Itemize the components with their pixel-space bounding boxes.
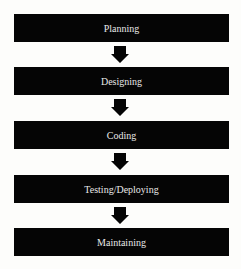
step-label: Coding: [107, 130, 136, 141]
step-label: Testing/Deploying: [84, 184, 158, 195]
down-arrow-icon: [111, 207, 129, 224]
step-planning: Planning: [14, 14, 229, 42]
step-coding: Coding: [14, 121, 229, 149]
step-maintaining: Maintaining: [14, 228, 229, 256]
step-label: Planning: [104, 23, 140, 34]
step-label: Maintaining: [97, 237, 146, 248]
step-designing: Designing: [14, 67, 229, 95]
step-label: Designing: [101, 76, 142, 87]
down-arrow-icon: [111, 99, 129, 116]
down-arrow-icon: [111, 153, 129, 170]
step-testing-deploying: Testing/Deploying: [14, 175, 229, 203]
down-arrow-icon: [111, 46, 129, 63]
